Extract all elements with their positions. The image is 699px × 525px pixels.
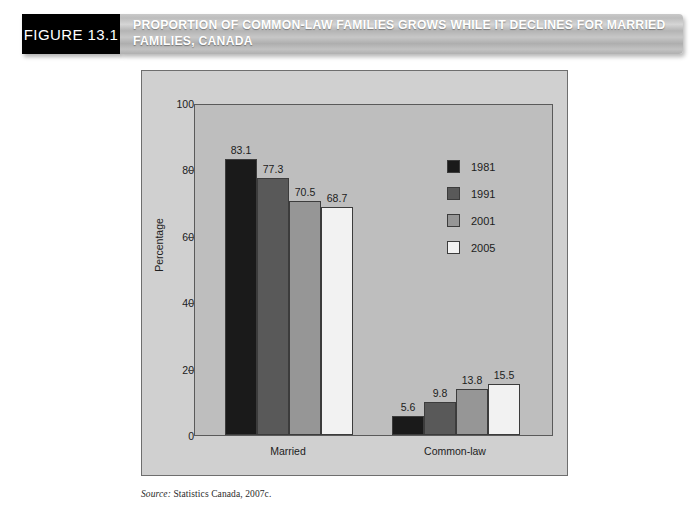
bar-1981-common-law: [392, 416, 424, 435]
bar-1991-married: [257, 178, 289, 435]
bar-2005-common-law: [488, 384, 520, 435]
source-note: Source: Statistics Canada, 2007c.: [141, 489, 271, 499]
legend-label-2001: 2001: [471, 215, 495, 227]
legend-item-2001: 2001: [447, 207, 495, 234]
chart-legend: 1981199120012005: [447, 153, 495, 261]
source-label: Source:: [141, 489, 171, 499]
legend-label-1981: 1981: [471, 161, 495, 173]
legend-swatch-2001: [447, 214, 460, 227]
chart-panel: Percentage 020406080100 83.177.370.568.7…: [141, 70, 568, 476]
bar-value-label: 15.5: [488, 369, 520, 381]
x-category-label-common-law: Common-law: [391, 445, 519, 457]
figure-title: PROPORTION OF COMMON-LAW FAMILIES GROWS …: [133, 18, 673, 49]
legend-item-2005: 2005: [447, 234, 495, 261]
y-axis-title: Percentage: [153, 218, 165, 272]
bar-value-label: 9.8: [424, 387, 456, 399]
bar-value-label: 70.5: [289, 186, 321, 198]
figure-title-bar: PROPORTION OF COMMON-LAW FAMILIES GROWS …: [120, 14, 683, 54]
bar-2001-common-law: [456, 389, 488, 435]
bar-value-label: 83.1: [225, 144, 257, 156]
bar-value-label: 5.6: [392, 401, 424, 413]
legend-swatch-2005: [447, 241, 460, 254]
legend-swatch-1981: [447, 160, 460, 173]
bar-2005-married: [321, 207, 353, 435]
bar-1981-married: [225, 159, 257, 435]
bar-value-label: 77.3: [257, 163, 289, 175]
y-tick-label: 100: [164, 98, 194, 110]
y-tick-label: 0: [164, 430, 194, 442]
figure-header: FIGURE 13.1 PROPORTION OF COMMON-LAW FAM…: [0, 14, 699, 58]
bar-2001-married: [289, 201, 321, 435]
bar-value-label: 68.7: [321, 192, 353, 204]
legend-label-1991: 1991: [471, 188, 495, 200]
x-category-label-married: Married: [224, 445, 352, 457]
bar-value-label: 13.8: [456, 374, 488, 386]
plot-area: 83.177.370.568.75.69.813.815.5: [194, 104, 553, 436]
source-text: Statistics Canada, 2007c.: [171, 489, 272, 499]
y-axis: Percentage 020406080100: [150, 104, 194, 436]
legend-swatch-1991: [447, 187, 460, 200]
bar-1991-common-law: [424, 402, 456, 435]
figure-number-tag: FIGURE 13.1: [22, 14, 120, 54]
legend-item-1981: 1981: [447, 153, 495, 180]
legend-item-1991: 1991: [447, 180, 495, 207]
legend-label-2005: 2005: [471, 242, 495, 254]
